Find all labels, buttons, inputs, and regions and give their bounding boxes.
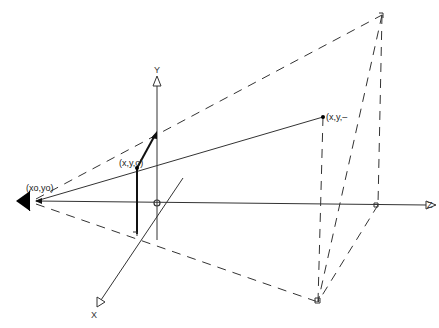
y-axis-label: Y	[154, 65, 160, 75]
projection-segments	[137, 135, 155, 234]
object-point-label: (x,y,–	[326, 112, 347, 122]
x-axis-line	[101, 178, 183, 300]
right-angle-marks	[133, 13, 383, 303]
sight-line	[36, 117, 323, 201]
far-plane-right-edge	[378, 15, 382, 205]
z-axis-line	[36, 201, 427, 205]
y-axis-arrow-icon	[153, 76, 161, 86]
x-axis-arrow-icon	[97, 297, 105, 307]
perspective-diagram: (xo,yo) (x,y,o) (x,y,– Y Z X	[0, 0, 439, 328]
projection-arrow-icon	[151, 131, 157, 139]
solid-lines	[36, 84, 427, 300]
far-plane-bottom-edge	[318, 205, 378, 302]
object-point-dot	[321, 115, 325, 119]
object-drop-line	[318, 117, 323, 302]
projected-point-label: (x,y,o)	[119, 158, 143, 168]
eye-label: (xo,yo)	[26, 183, 54, 193]
frustum-bottom-edge	[36, 204, 318, 302]
frustum-dashed-lines	[36, 15, 382, 302]
far-plane-diagonal	[318, 15, 382, 302]
x-axis-label: X	[91, 310, 97, 320]
frustum-top-edge	[36, 15, 382, 199]
diagram-svg: (xo,yo) (x,y,o) (x,y,– Y Z X	[0, 0, 439, 328]
z-axis-label: Z	[427, 200, 433, 210]
